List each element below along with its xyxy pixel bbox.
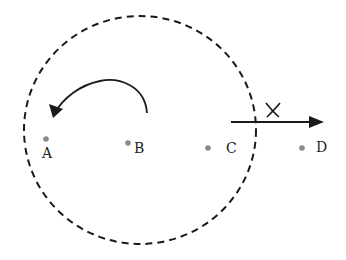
point-d-label: D [316, 140, 327, 154]
point-d-dot [299, 145, 305, 151]
point-a-dot [43, 136, 49, 142]
dashed-circle-boundary [24, 16, 256, 244]
point-c-label: C [226, 141, 237, 155]
curved-arrowhead-icon [49, 104, 63, 118]
x-mark-icon [266, 103, 280, 117]
point-c-dot [205, 145, 211, 151]
diagram-canvas [0, 0, 346, 260]
point-b-dot [125, 140, 131, 146]
curved-arrow-icon [54, 80, 147, 114]
straight-arrowhead-icon [309, 116, 324, 128]
point-a-label: A [42, 146, 52, 160]
point-b-label: B [134, 141, 144, 155]
